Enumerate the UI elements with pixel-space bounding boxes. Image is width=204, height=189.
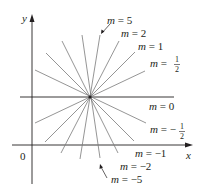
label-m-half: m = 1 2 bbox=[150, 55, 180, 74]
pointer-m-neg-5 bbox=[101, 167, 107, 178]
svg-text:1: 1 bbox=[175, 55, 179, 64]
diagram-canvas: y x 0 m = 5 m = 2 m = 1 m = 1 2 m = 0 m … bbox=[0, 0, 204, 189]
svg-text:2: 2 bbox=[180, 132, 184, 141]
origin-label: 0 bbox=[20, 150, 26, 162]
x-axis-label: x bbox=[185, 149, 191, 161]
label-m-2: m = 2 bbox=[121, 27, 146, 39]
label-m-neg-5: m = −5 bbox=[111, 173, 143, 185]
slope-family-diagram: y x 0 m = 5 m = 2 m = 1 m = 1 2 m = 0 m … bbox=[0, 0, 204, 189]
label-m-0: m = 0 bbox=[149, 100, 175, 112]
label-m-1: m = 1 bbox=[138, 40, 163, 52]
pointer-m-5-arrow-icon bbox=[101, 30, 105, 35]
x-axis-arrow-icon bbox=[185, 143, 193, 148]
svg-text:m = −: m = − bbox=[150, 123, 176, 135]
svg-text:1: 1 bbox=[180, 122, 184, 131]
y-axis-label: y bbox=[21, 12, 27, 24]
label-m-neg-half: m = − 1 2 bbox=[150, 122, 185, 141]
label-m-neg-1: m = −1 bbox=[135, 147, 166, 159]
y-axis-arrow-icon bbox=[30, 14, 35, 22]
label-m-neg-2: m = −2 bbox=[120, 160, 151, 172]
label-m-5: m = 5 bbox=[107, 14, 133, 26]
svg-text:2: 2 bbox=[175, 65, 179, 74]
center-point bbox=[88, 95, 91, 98]
pointer-m-neg-5-arrow-icon bbox=[100, 164, 104, 169]
svg-text:m =: m = bbox=[150, 57, 167, 69]
